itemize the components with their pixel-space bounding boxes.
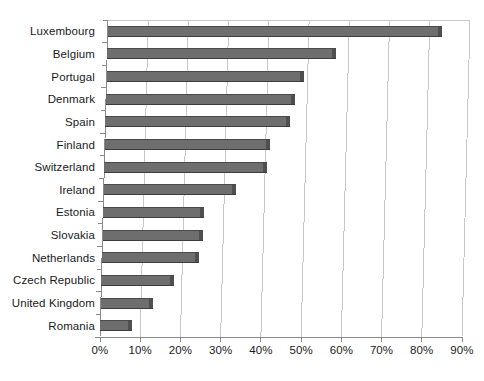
bar — [106, 94, 295, 105]
category-label: Netherlands — [32, 252, 95, 264]
bar-end-cap — [128, 321, 132, 330]
x-axis-tick-label: 50% — [281, 344, 321, 356]
bar-end-cap — [438, 27, 442, 36]
category-label: Belgium — [53, 48, 95, 60]
bar — [104, 162, 267, 173]
bar — [102, 252, 199, 263]
x-axis-tick-label: 40% — [241, 344, 281, 356]
bar — [107, 71, 304, 82]
bar-chart: LuxembourgBelgiumPortugalDenmarkSpainFin… — [0, 0, 484, 381]
bar-end-cap — [170, 276, 174, 285]
category-label: Portugal — [51, 71, 95, 83]
x-axis-tick-label: 30% — [201, 344, 241, 356]
category-label: Spain — [65, 116, 95, 128]
category-label: Switzerland — [34, 161, 95, 173]
bar — [101, 298, 153, 309]
bar — [108, 26, 442, 37]
x-axis-tick-label: 20% — [160, 344, 200, 356]
bar-end-cap — [195, 253, 199, 262]
bar-end-cap — [286, 117, 290, 126]
x-axis-tick-label: 10% — [120, 344, 160, 356]
bar — [107, 48, 336, 59]
bar-end-cap — [291, 95, 295, 104]
category-label: Estonia — [56, 206, 95, 218]
bar-end-cap — [332, 49, 336, 58]
bar-end-cap — [199, 231, 203, 240]
bar — [103, 207, 204, 218]
x-axis-tick-label: 80% — [402, 344, 442, 356]
bar-end-cap — [232, 185, 236, 194]
x-axis-tick-label: 0% — [80, 344, 120, 356]
bar — [105, 139, 270, 150]
category-label: Denmark — [48, 93, 95, 105]
bar — [105, 116, 290, 127]
bar-end-cap — [300, 72, 304, 81]
category-label: Czech Republic — [13, 274, 95, 286]
bar-end-cap — [200, 208, 204, 217]
x-axis-tick-label: 60% — [321, 344, 361, 356]
category-label: Finland — [57, 139, 95, 151]
bar — [104, 184, 237, 195]
x-axis-tick-label: 70% — [362, 344, 402, 356]
bar — [103, 230, 204, 241]
category-label: Ireland — [59, 184, 95, 196]
category-label: Luxembourg — [30, 25, 95, 37]
bar-end-cap — [266, 140, 270, 149]
bar-end-cap — [263, 163, 267, 172]
bar — [101, 275, 173, 286]
category-label: Slovakia — [51, 229, 95, 241]
category-label: United Kingdom — [12, 297, 95, 309]
category-label: Romania — [48, 320, 95, 332]
bar-end-cap — [149, 299, 153, 308]
x-axis-tick-label: 90% — [442, 344, 482, 356]
